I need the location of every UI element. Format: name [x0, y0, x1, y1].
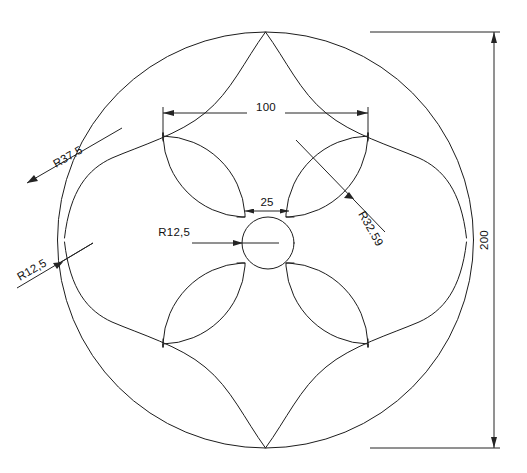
arrowhead-bottom: [491, 437, 497, 448]
leader-fillet-r125: R12,5: [15, 243, 93, 288]
dimension-label-200: 200: [478, 230, 490, 250]
dimension-label-100: 100: [256, 101, 276, 113]
lobe-bottom-right: [266, 242, 467, 448]
arrowhead-gap-left: [245, 209, 254, 214]
arrowhead-top: [491, 32, 497, 43]
dimension-label-r375: R37.5: [51, 143, 84, 169]
arrowhead-center-bore: [233, 240, 243, 246]
arrowhead-petal: [344, 192, 354, 199]
dimension-overall-200: 200: [370, 32, 500, 448]
lobe-top-left: [65, 32, 266, 238]
technical-drawing-svg: 200 100 25 R12,5: [0, 0, 527, 473]
petal-upper-left: [163, 133, 245, 217]
leader-center-bore-r125: R12,5: [158, 226, 279, 246]
dimension-label-25: 25: [260, 196, 273, 208]
outer-circle: [58, 32, 474, 448]
dimension-width-100: 100: [163, 101, 368, 140]
petal-upper-right: [286, 133, 368, 217]
arrowhead-left: [163, 110, 174, 116]
petal-lower-left: [163, 263, 245, 347]
part-geometry: [58, 32, 474, 448]
dimension-label-center-r125: R12,5: [158, 226, 190, 238]
lobe-bottom-left: [65, 242, 266, 448]
lobe-top-right: [266, 32, 467, 238]
leader-line-fillet-ext: [58, 243, 93, 264]
arrowhead-right: [357, 110, 368, 116]
leader-petal-r3259: R32.59: [296, 140, 386, 248]
arrowhead-lobe: [27, 175, 38, 183]
dimension-gap-25: 25: [245, 195, 289, 214]
cad-drawing-canvas: 200 100 25 R12,5: [0, 0, 527, 473]
petal-lower-right: [286, 263, 368, 347]
arrowhead-gap-right: [280, 209, 289, 214]
leader-lobe-r375: R37.5: [27, 128, 122, 183]
